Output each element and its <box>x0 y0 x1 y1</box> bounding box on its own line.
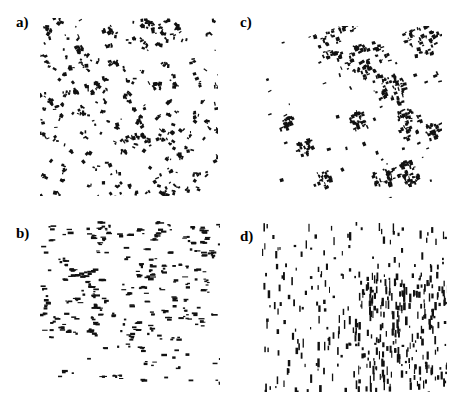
panel-image-a <box>40 18 218 196</box>
panel-label-d: d) <box>240 228 253 245</box>
panel-label-b: b) <box>16 225 29 242</box>
panel-image-d <box>262 222 447 392</box>
panel-image-c <box>262 26 442 198</box>
panel-label-c: c) <box>240 14 252 31</box>
panel-label-a: a) <box>16 14 29 31</box>
panel-image-b <box>40 220 220 390</box>
